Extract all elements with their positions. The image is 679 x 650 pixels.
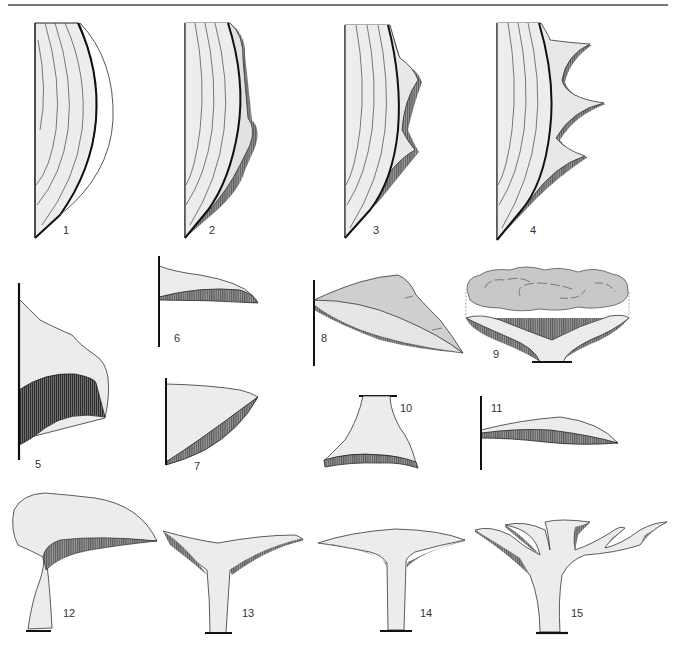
figure-label: 6 — [174, 332, 180, 344]
figure-label: 9 — [493, 348, 499, 360]
figure-label: 5 — [35, 458, 41, 470]
figure-14: 14 — [318, 529, 465, 631]
figure-6: 6 — [159, 256, 258, 347]
figure-label: 7 — [194, 460, 200, 472]
figure-label: 2 — [209, 224, 215, 236]
figure-4: 4 — [497, 23, 606, 240]
figure-5: 5 — [19, 283, 109, 470]
figure-11: 11 — [481, 396, 618, 470]
figure-15: 15 — [475, 520, 667, 633]
figure-8: 8 — [314, 275, 463, 366]
figure-10: 10 — [324, 396, 418, 468]
figure-label: 4 — [530, 224, 536, 236]
figure-label: 15 — [571, 607, 583, 619]
figure-12: 12 — [13, 493, 157, 631]
figure-label: 1 — [63, 224, 69, 236]
figure-2: 2 — [185, 23, 258, 238]
figure-7: 7 — [166, 378, 258, 472]
figure-label: 13 — [242, 607, 254, 619]
figure-label: 10 — [400, 402, 412, 414]
figure-label: 8 — [321, 332, 327, 344]
fungal-fruitbody-plate: 1 2 3 4 5 — [0, 0, 679, 650]
figure-label: 14 — [420, 607, 432, 619]
figure-3: 3 — [345, 25, 422, 238]
figure-13: 13 — [163, 531, 303, 633]
figure-9: 9 — [466, 267, 629, 362]
figure-label: 12 — [63, 607, 75, 619]
figure-label: 11 — [491, 402, 502, 414]
figure-label: 3 — [373, 224, 379, 236]
figure-1: 1 — [35, 23, 113, 238]
